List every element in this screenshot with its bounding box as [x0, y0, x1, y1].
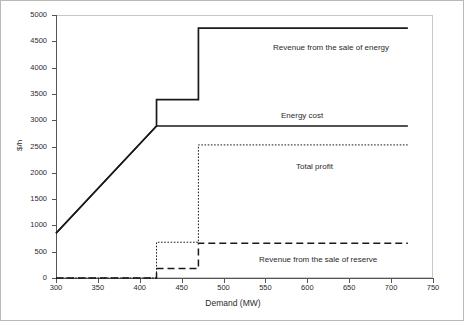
- annotation-energy-cost: Energy cost: [281, 111, 323, 120]
- y-tick-label: 4000: [1, 64, 47, 72]
- y-tick-label: 3500: [1, 90, 47, 98]
- y-tick: [52, 68, 56, 69]
- y-axis-line: [56, 15, 57, 279]
- x-tick-label: 350: [78, 284, 118, 292]
- y-tick: [52, 120, 56, 121]
- plot-area-frame: [56, 15, 433, 278]
- x-tick-label: 400: [120, 284, 160, 292]
- y-tick: [52, 225, 56, 226]
- x-axis-line: [56, 278, 434, 279]
- y-tick-label: 0: [1, 274, 47, 282]
- y-axis-title: $/h: [15, 140, 24, 151]
- y-tick-label: 1500: [1, 195, 47, 203]
- y-tick-label: 2000: [1, 169, 47, 177]
- x-tick-label: 600: [287, 284, 327, 292]
- x-tick-label: 700: [371, 284, 411, 292]
- y-tick-label: 2500: [1, 143, 47, 151]
- x-tick-label: 650: [329, 284, 369, 292]
- y-tick-label: 500: [1, 248, 47, 256]
- annotation-energy-revenue: Revenue from the sale of energy: [273, 43, 389, 52]
- y-tick: [52, 41, 56, 42]
- y-tick-label: 3000: [1, 116, 47, 124]
- x-tick-label: 550: [245, 284, 285, 292]
- chart-figure: 0500100015002000250030003500400045005000…: [0, 0, 464, 321]
- annotation-total-profit: Total profit: [296, 162, 333, 171]
- x-tick-label: 750: [413, 284, 453, 292]
- y-tick-label: 4500: [1, 37, 47, 45]
- x-tick-label: 500: [204, 284, 244, 292]
- y-tick: [52, 147, 56, 148]
- y-tick: [52, 15, 56, 16]
- y-tick: [52, 94, 56, 95]
- x-tick-label: 450: [162, 284, 202, 292]
- y-tick: [52, 199, 56, 200]
- y-tick-label: 1000: [1, 221, 47, 229]
- x-axis-title: Demand (MW): [1, 298, 464, 308]
- annotation-reserve-revenue: Revenue from the sale of reserve: [259, 255, 377, 264]
- y-tick: [52, 173, 56, 174]
- y-tick: [52, 252, 56, 253]
- x-tick-label: 300: [36, 284, 76, 292]
- y-tick-label: 5000: [1, 11, 47, 19]
